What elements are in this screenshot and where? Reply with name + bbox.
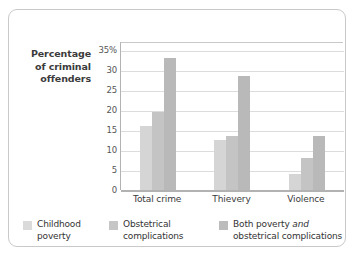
legend-item-2[interactable]: Both poverty and obstetrical complicatio… xyxy=(219,219,347,242)
legend-swatch-both xyxy=(219,221,228,230)
bar-violence-series-2[interactable] xyxy=(313,136,325,190)
legend-item-0[interactable]: Childhood poverty xyxy=(23,219,109,242)
legend-label-1: Obstetrical complications xyxy=(123,219,219,242)
y-axis-tick-labels: 05101520253035% xyxy=(93,42,117,190)
legend-swatch-obstetrical-complications xyxy=(109,221,118,230)
bar-group-total-crime xyxy=(121,43,195,190)
y-axis-tick-20: 20 xyxy=(93,105,117,115)
y-axis-tick-15: 15 xyxy=(93,125,117,135)
legend-swatch-childhood-poverty xyxy=(23,221,32,230)
bar-thievery-series-0[interactable] xyxy=(214,140,226,190)
legend-item-1[interactable]: Obstetrical complications xyxy=(109,219,219,242)
y-axis-tick-35: 35% xyxy=(93,45,117,55)
bar-thievery-series-1[interactable] xyxy=(226,136,238,190)
figure-frame: Percentage of criminal offenders 0510152… xyxy=(8,9,346,247)
bar-group-violence xyxy=(270,43,344,190)
bar-total-crime-series-0[interactable] xyxy=(140,126,152,190)
bar-group-thievery xyxy=(195,43,269,190)
x-axis-category-labels: Total crimeThieveryViolence xyxy=(120,194,343,208)
bar-total-crime-series-2[interactable] xyxy=(164,58,176,190)
y-axis-tick-5: 5 xyxy=(93,165,117,175)
bars-layer xyxy=(121,43,343,190)
legend-label-0: Childhood poverty xyxy=(37,219,109,242)
plot-wrapper: 05101520253035% xyxy=(93,42,343,190)
bar-total-crime-series-1[interactable] xyxy=(152,112,164,190)
y-axis-tick-25: 25 xyxy=(93,85,117,95)
gridline-0 xyxy=(121,190,344,191)
x-axis-label-thievery: Thievery xyxy=(212,194,250,204)
plot-area xyxy=(120,42,343,190)
legend-label-2: Both poverty and obstetrical complicatio… xyxy=(233,219,347,242)
bar-violence-series-1[interactable] xyxy=(301,158,313,190)
chart-legend: Childhood povertyObstetrical complicatio… xyxy=(23,219,348,242)
bar-violence-series-0[interactable] xyxy=(289,174,301,190)
x-axis-label-violence: Violence xyxy=(287,194,324,204)
x-axis-label-total-crime: Total crime xyxy=(133,194,181,204)
legend-label-emphasis: and xyxy=(292,219,308,229)
y-axis-tick-0: 0 xyxy=(93,185,117,195)
bar-thievery-series-2[interactable] xyxy=(238,76,250,190)
y-axis-title: Percentage of criminal offenders xyxy=(19,48,91,86)
y-axis-tick-10: 10 xyxy=(93,145,117,155)
y-axis-tick-30: 30 xyxy=(93,65,117,75)
